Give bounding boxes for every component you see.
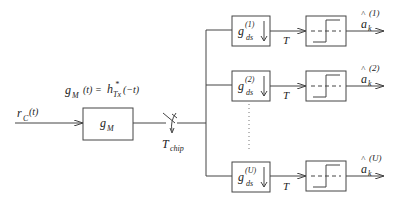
svg-text:r: r	[17, 106, 22, 120]
svg-text:ds: ds	[246, 179, 253, 188]
svg-text:(t): (t)	[29, 106, 39, 118]
svg-text:(U): (U)	[369, 153, 382, 163]
svg-text:k: k	[368, 24, 372, 33]
matched-filter-equation: g M (t) = h * Tx (−t)	[65, 80, 140, 100]
svg-text:g: g	[238, 79, 244, 93]
block-diagram: r C (t) g M (t) = h * Tx (−t) g M T chip…	[0, 0, 402, 202]
svg-text:g: g	[238, 24, 244, 38]
svg-text:a: a	[361, 72, 367, 86]
svg-text:(2): (2)	[369, 63, 380, 73]
input-signal-label: r C (t)	[17, 106, 39, 123]
branch-1: g (1) ds T a ^ k (1)	[206, 8, 384, 46]
svg-text:(1): (1)	[369, 8, 380, 18]
svg-text:ds: ds	[246, 88, 253, 97]
svg-text:g: g	[238, 170, 244, 184]
svg-text:T: T	[283, 34, 290, 46]
svg-text:(1): (1)	[245, 20, 255, 29]
svg-text:(2): (2)	[245, 75, 255, 84]
svg-text:T: T	[162, 137, 170, 151]
svg-text:chip: chip	[170, 144, 184, 153]
svg-text:g: g	[100, 116, 106, 130]
svg-text:k: k	[368, 169, 372, 178]
svg-text:T: T	[283, 89, 290, 101]
svg-text:a: a	[361, 17, 367, 31]
svg-text:(U): (U)	[245, 166, 256, 175]
svg-text:*: *	[115, 80, 119, 89]
svg-text:ds: ds	[246, 33, 253, 42]
svg-text:M: M	[106, 124, 115, 133]
svg-text:a: a	[361, 162, 367, 176]
svg-text:T: T	[283, 180, 290, 192]
branch-2: g (2) ds T a ^ k (2)	[206, 63, 384, 101]
svg-text:(t) =: (t) =	[83, 84, 102, 96]
svg-text:Tx: Tx	[113, 90, 121, 99]
svg-text:k: k	[368, 79, 372, 88]
branch-U: g (U) ds T a ^ k (U)	[206, 153, 384, 192]
svg-text:g: g	[65, 83, 71, 97]
svg-text:(−t): (−t)	[123, 84, 140, 96]
sampler-label: T chip	[162, 137, 184, 153]
svg-text:M: M	[71, 91, 80, 100]
